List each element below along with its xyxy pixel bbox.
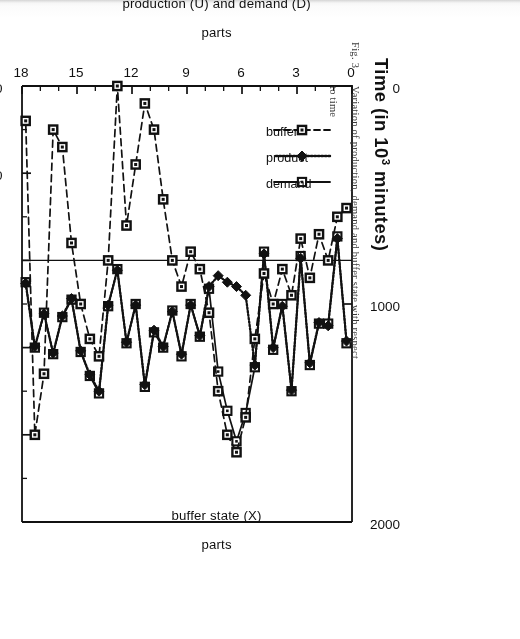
caption-line-1: Variation of production, demand and buff… [350,86,361,359]
legend-label-demand: demand [266,177,312,191]
series-product [21,234,352,397]
legend-label-buffer: buffer [266,125,298,139]
caption-rotation-wrapper: Fig. 3. Variation of production, demand … [309,40,405,540]
x-tick-label: 3 [284,65,308,80]
x-tick-label: 6 [229,65,253,80]
x-tick-label: 12 [119,65,143,80]
right-y-tick-label: 20 [0,343,17,358]
left-axis-title-line1: production (U) and demand (D) [122,0,310,11]
legend-label-product: product [266,151,308,165]
caption-line-2: to time [328,86,339,117]
left-axis-title-line2: parts [201,25,231,40]
x-tick-label: 9 [174,65,198,80]
figure-number: Fig. 3. [350,42,361,71]
right-y-tick-label: 60 [0,517,17,532]
right-y-tick-label: -20 [0,168,17,183]
right-axis-title-line1: buffer state (X) [172,508,262,523]
x-tick-label: 15 [64,65,88,80]
right-y-tick-label: 40 [0,430,17,445]
right-y-tick-label: 0 [0,255,17,270]
right-axis-title-line2: parts [201,537,231,552]
right-y-tick-label: -40 [0,81,17,96]
figure-caption: Fig. 3. Variation of production, demand … [309,40,405,540]
x-tick-label: 18 [9,65,33,80]
